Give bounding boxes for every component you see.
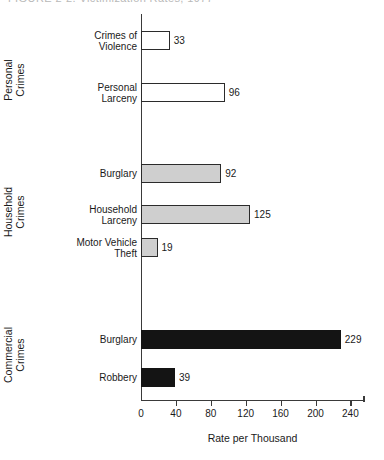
bar — [141, 164, 221, 183]
bar — [141, 205, 250, 224]
x-axis-tick-label: 0 — [126, 408, 156, 419]
x-axis-tick — [281, 401, 282, 406]
bar — [141, 330, 341, 349]
bar-value-label: 96 — [229, 83, 240, 102]
bar — [141, 238, 158, 257]
group-label: Commercial Crimes — [2, 295, 26, 415]
victimization-rates-bar-chart: Personal CrimesHousehold CrimesCommercia… — [0, 0, 384, 460]
bar — [141, 83, 225, 102]
bar — [141, 368, 175, 387]
x-axis-end-cap — [363, 396, 365, 402]
bar-category-label: Motor Vehicle Theft — [27, 237, 137, 259]
group-label: Personal Crimes — [2, 20, 26, 140]
x-axis-tick-label: 200 — [301, 408, 331, 419]
bar-value-label: 33 — [174, 31, 185, 50]
bar-value-label: 229 — [345, 330, 362, 349]
x-axis-tick-label: 80 — [196, 408, 226, 419]
x-axis-tick-label: 160 — [266, 408, 296, 419]
x-axis-tick-label: 120 — [231, 408, 261, 419]
bar-category-label: Household Larceny — [27, 204, 137, 226]
bar-value-label: 19 — [162, 238, 173, 257]
x-axis-tick-label: 40 — [161, 408, 191, 419]
x-axis-title: Rate per Thousand — [141, 432, 364, 444]
x-axis-tick — [176, 401, 177, 406]
group-label: Household Crimes — [2, 152, 26, 272]
bar-category-label: Burglary — [27, 334, 137, 345]
x-axis-tick — [316, 401, 317, 406]
bar-category-label: Crimes of Violence — [27, 30, 137, 52]
x-axis-tick — [350, 401, 351, 406]
bar-category-label: Personal Larceny — [27, 82, 137, 104]
bar-category-label: Robbery — [27, 372, 137, 383]
x-axis-tick — [211, 401, 212, 406]
x-axis-tick — [246, 401, 247, 406]
bar-value-label: 39 — [179, 368, 190, 387]
x-axis-tick-label: 240 — [335, 408, 365, 419]
bar-category-label: Burglary — [27, 168, 137, 179]
bar — [141, 31, 170, 50]
bar-value-label: 92 — [225, 164, 236, 183]
bar-value-label: 125 — [254, 205, 271, 224]
